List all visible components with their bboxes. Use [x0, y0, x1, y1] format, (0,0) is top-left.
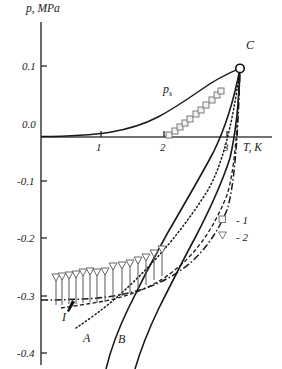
series-2-markers [52, 246, 166, 281]
y-axis-ticks [41, 66, 47, 353]
saturation-curve-label: ps [163, 82, 172, 98]
x-axis-title: T, K [243, 141, 262, 153]
x-tick-label-1: 1 [96, 141, 102, 153]
y-axis-title: p, MPa [26, 2, 60, 14]
critical-point-label: C [246, 38, 254, 53]
y-tick-label-0: 0.1 [22, 60, 36, 72]
curve-group [41, 68, 240, 369]
x-tick-label-3: 3 [223, 141, 229, 153]
critical-point-marker [236, 64, 244, 72]
y-tick-label-5: -0.4 [17, 347, 34, 359]
y-tick-label-4: -0.3 [17, 290, 34, 302]
dotted-upper-curve [76, 68, 240, 328]
series-1-markers [166, 88, 224, 138]
curve-B-label: B [118, 332, 125, 347]
legend-markers [219, 216, 227, 239]
y-tick-label-2: -0.1 [17, 175, 34, 187]
y-tick-label-3: -0.2 [17, 232, 34, 244]
curve-A-label: A [83, 331, 90, 346]
y-tick-label-1: 0.0 [22, 118, 36, 130]
x-tick-label-2: 2 [160, 141, 166, 153]
legend-entry-1: - 1 [236, 214, 248, 226]
legend-entry-2: - 2 [236, 231, 248, 243]
ps-subscript: s [169, 89, 172, 98]
x-axis-ticks [101, 131, 227, 137]
curve-I-label: I [62, 310, 66, 325]
phase-diagram-chart [0, 0, 282, 369]
curve-I-dashed [61, 76, 239, 308]
